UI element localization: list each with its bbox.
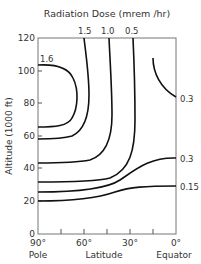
y-tick-60: 60 — [24, 131, 36, 141]
contour-label-1.6: 1.6 — [40, 54, 54, 64]
contour-0.15 — [38, 186, 176, 201]
x-tick-0: 0° — [171, 238, 181, 248]
y-tick-120: 120 — [18, 33, 35, 43]
x-axis-title: Latitude — [85, 250, 123, 260]
contour-label-1.5: 1.5 — [78, 26, 92, 36]
chart-title: Radiation Dose (mrem /hr) — [44, 8, 170, 19]
y-axis-title: Altitude (1000 ft) — [4, 97, 14, 174]
y-axis-labels: 120 100 80 60 40 20 0 — [18, 33, 35, 239]
x-tick-60: 60° — [76, 238, 92, 248]
y-tick-80: 80 — [24, 98, 36, 108]
equator-label: Equator — [156, 250, 192, 260]
x-tick-30: 30° — [122, 238, 138, 248]
contour-chart: Radiation Dose (mrem /hr) 120 100 80 60 … — [0, 0, 201, 264]
y-tick-100: 100 — [18, 66, 35, 76]
contour-label-0.5: 0.5 — [125, 26, 139, 36]
x-tick-90: 90° — [30, 238, 46, 248]
pole-label: Pole — [29, 250, 48, 260]
contour-label-0.3-upper: 0.3 — [180, 94, 194, 104]
contour-labels: 1.6 1.5 1.0 0.5 0.3 0.3 0.15 — [40, 26, 199, 192]
contour-label-1.0: 1.0 — [101, 26, 115, 36]
contour-lines — [38, 38, 176, 201]
contour-1.6 — [38, 65, 77, 127]
y-tick-20: 20 — [24, 196, 36, 206]
x-axis-labels: 90° 60° 30° 0° Pole Latitude Equator — [29, 238, 192, 260]
contour-label-0.15: 0.15 — [180, 182, 199, 192]
contour-0.3-upper — [153, 58, 176, 97]
contour-label-0.3-lower: 0.3 — [180, 154, 194, 164]
x-axis-ticks — [61, 229, 153, 234]
y-tick-40: 40 — [24, 163, 36, 173]
